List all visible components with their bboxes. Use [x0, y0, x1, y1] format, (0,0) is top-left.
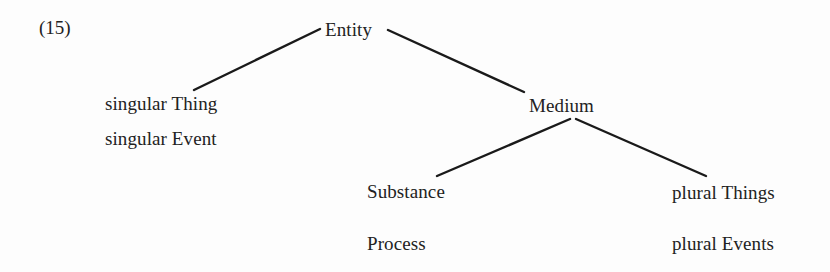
edge-entity-singular-thing	[194, 29, 320, 90]
tree-node-substance: Substance	[367, 182, 445, 201]
tree-diagram-figure: (15) Entity Medium singular Thing singul…	[0, 0, 830, 272]
edge-medium-substance	[437, 119, 570, 176]
edge-medium-plural-things	[576, 119, 706, 176]
tree-node-process: Process	[367, 234, 426, 253]
tree-node-plural-events: plural Events	[672, 234, 774, 253]
tree-node-singular-thing: singular Thing	[105, 94, 217, 113]
example-number: (15)	[39, 18, 71, 37]
edge-entity-medium	[388, 30, 524, 92]
tree-node-singular-event: singular Event	[105, 129, 217, 148]
tree-node-plural-things: plural Things	[672, 183, 775, 202]
tree-node-entity: Entity	[325, 20, 372, 39]
tree-node-medium: Medium	[529, 96, 594, 115]
